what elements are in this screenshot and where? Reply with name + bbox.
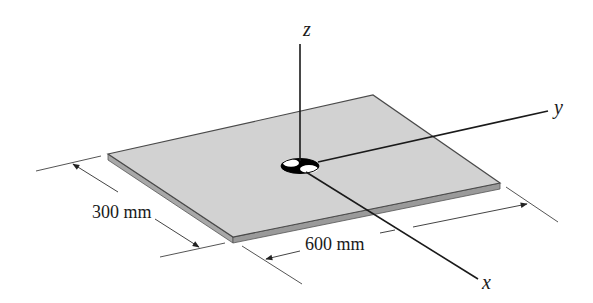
- x-axis-label: x: [481, 271, 491, 293]
- plate-diagram: z y x 300 mm 600 mm: [0, 0, 593, 303]
- z-axis-label: z: [302, 18, 311, 40]
- width-dimension-label: 300 mm: [92, 202, 152, 222]
- y-axis-label: y: [552, 96, 563, 119]
- length-dimension-label: 600 mm: [305, 234, 365, 254]
